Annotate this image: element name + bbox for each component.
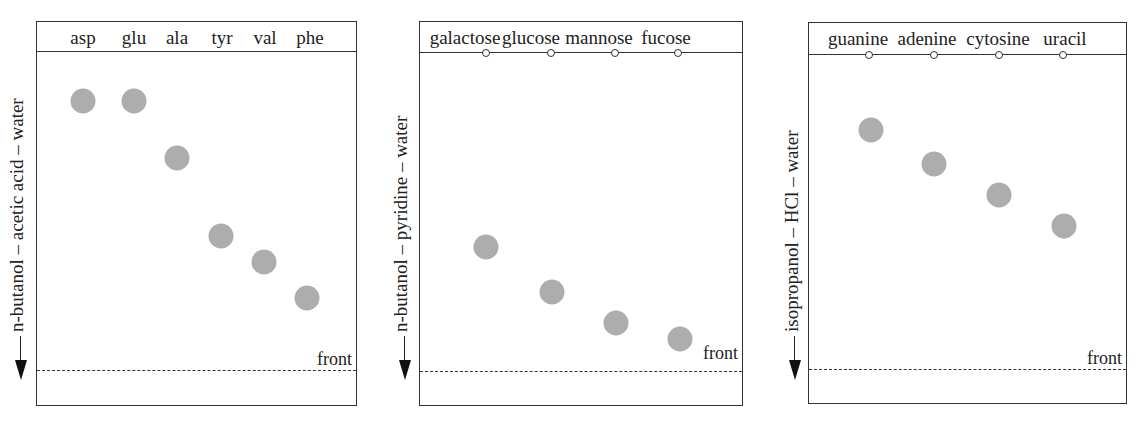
spot-mannose <box>604 311 629 336</box>
compound-label: tyr <box>211 28 232 47</box>
compound-label: mannose <box>565 28 633 47</box>
origin-mark <box>865 51 873 59</box>
front-label: front <box>1087 349 1122 367</box>
origin-mark <box>930 51 938 59</box>
compound-label: guanine <box>828 29 888 48</box>
compound-label: ala <box>166 28 188 47</box>
origin-mark <box>547 49 555 57</box>
origin-mark <box>1059 51 1067 59</box>
spot-glu <box>122 89 147 114</box>
compound-label: cytosine <box>966 29 1029 48</box>
compound-label: phe <box>296 28 323 47</box>
solvent-label: n-butanol – pyridine – water <box>391 116 410 332</box>
arrow-down-icon <box>399 360 411 380</box>
solvent-front-line <box>37 370 356 371</box>
origin-mark <box>995 51 1003 59</box>
spot-tyr <box>209 224 234 249</box>
origin-mark <box>674 49 682 57</box>
compound-label: val <box>253 28 276 47</box>
paper-strip: front galactose glucose mannose fucose <box>419 21 743 406</box>
spot-uracil <box>1052 214 1077 239</box>
compound-label: fucose <box>641 28 691 47</box>
arrow-down-icon <box>789 360 801 380</box>
compound-label: adenine <box>897 29 956 48</box>
arrow-down-icon <box>15 360 27 380</box>
spot-adenine <box>922 152 947 177</box>
front-label: front <box>317 350 352 368</box>
spot-glucose <box>540 280 565 305</box>
spot-phe <box>295 286 320 311</box>
compound-label: glucose <box>502 28 560 47</box>
compound-label: glu <box>122 28 146 47</box>
front-label: front <box>703 344 738 362</box>
origin-mark <box>611 49 619 57</box>
origin-mark <box>482 49 490 57</box>
flow-arrow-shaft <box>404 336 405 362</box>
solvent-label: n-butanol – acetic acid – water <box>7 98 26 332</box>
chromatogram-panel-amino-acids: n-butanol – acetic acid – water front as… <box>0 0 380 429</box>
spot-val <box>252 250 277 275</box>
origin-line <box>37 51 356 52</box>
paper-strip: front guanine adenine cytosine uracil <box>808 22 1127 404</box>
spot-cytosine <box>987 183 1012 208</box>
chromatogram-panel-sugars: n-butanol – pyridine – water front galac… <box>380 0 760 429</box>
solvent-front-line <box>420 371 742 372</box>
spot-guanine <box>859 118 884 143</box>
paper-strip: front asp glu ala tyr val phe <box>36 21 357 406</box>
flow-arrow-shaft <box>20 336 21 362</box>
solvent-label: isopropanol – HCl – water <box>782 130 801 332</box>
flow-arrow-shaft <box>794 336 795 362</box>
solvent-front-line <box>809 369 1126 370</box>
origin-line <box>420 52 742 53</box>
compound-label: uracil <box>1043 29 1086 48</box>
spot-asp <box>71 89 96 114</box>
spot-ala <box>165 146 190 171</box>
chromatogram-panel-bases: isopropanol – HCl – water front guanine … <box>760 0 1142 429</box>
spot-galactose <box>474 235 499 260</box>
spot-fucose <box>668 327 693 352</box>
origin-line <box>809 54 1126 55</box>
compound-label: asp <box>70 28 95 47</box>
compound-label: galactose <box>430 28 501 47</box>
